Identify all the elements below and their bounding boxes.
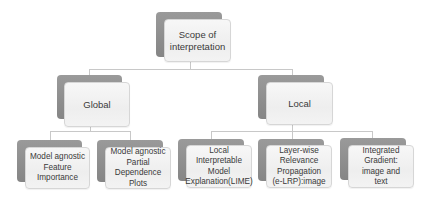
- leaf-5-box: Integrated Gradient: image and text: [348, 145, 414, 188]
- leaf-1-box: Model agnostic Feature Importance: [25, 147, 90, 189]
- local-node-box: Local: [266, 82, 333, 125]
- connector-to-leaf-5: [372, 131, 373, 138]
- leaf-2-label: Model agnostic Partial Dependence Plots: [106, 147, 170, 189]
- connector-to-leaf-1: [50, 131, 51, 140]
- leaf-4-label: Layer-wise Relevance Propagation (e-LRP)…: [272, 146, 325, 188]
- connector-to-leaf-4: [292, 131, 293, 139]
- connector-root-down: [190, 62, 191, 69]
- leaf-3-label: Local Interpretable Model Explanation(LI…: [185, 146, 252, 188]
- leaf-3-box: Local Interpretable Model Explanation(LI…: [186, 145, 252, 188]
- interpretation-scope-diagram: Scope of interpretation Global Local Mod…: [0, 0, 434, 199]
- leaf-5-label: Integrated Gradient: image and text: [362, 146, 400, 188]
- connector-to-leaf-3: [211, 131, 212, 139]
- local-node-label: Local: [288, 98, 311, 110]
- connector-global-horizontal: [50, 131, 131, 132]
- leaf-1-label: Model agnostic Feature Importance: [26, 152, 89, 184]
- global-node-box: Global: [64, 82, 130, 127]
- connector-to-leaf-2: [130, 131, 131, 140]
- leaf-4-box: Layer-wise Relevance Propagation (e-LRP)…: [266, 145, 332, 188]
- root-node-box: Scope of interpretation: [164, 19, 231, 62]
- global-node-label: Global: [83, 99, 110, 111]
- root-node-label: Scope of interpretation: [170, 29, 225, 53]
- leaf-2-box: Model agnostic Partial Dependence Plots: [105, 147, 171, 189]
- connector-level1-horizontal: [89, 69, 293, 70]
